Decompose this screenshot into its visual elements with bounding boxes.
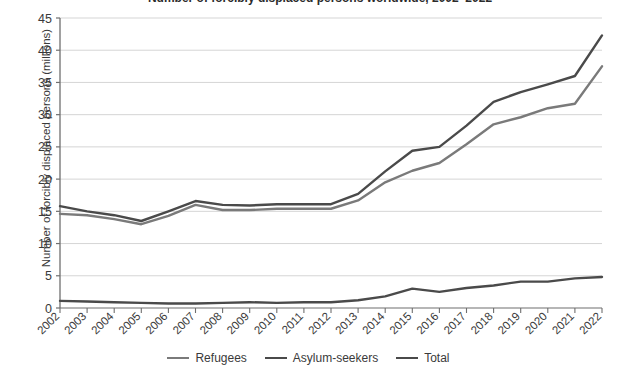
series-line-total — [60, 35, 602, 221]
x-tick-label: 2012 — [306, 310, 333, 337]
x-axis-labels: 2002200320042005200620072008200920102011… — [35, 310, 604, 337]
legend-swatch-total — [396, 357, 418, 359]
x-tick-label: 2011 — [279, 310, 305, 336]
legend-swatch-refugees — [167, 357, 189, 359]
y-tick-label: 5 — [45, 269, 52, 283]
legend-label-asylum-seekers: Asylum-seekers — [293, 351, 378, 365]
x-tick-label: 2021 — [550, 310, 577, 337]
legend-item-asylum-seekers[interactable]: Asylum-seekers — [265, 351, 378, 365]
x-tick-label: 2018 — [468, 310, 495, 337]
x-tick-label: 2003 — [62, 310, 89, 337]
y-axis-ticks: 051015202530354045 — [38, 12, 60, 316]
y-tick-label: 35 — [38, 76, 52, 90]
legend-label-refugees: Refugees — [195, 351, 246, 365]
x-tick-label: 2013 — [333, 310, 360, 337]
y-tick-label: 30 — [38, 108, 52, 122]
y-tick-label: 25 — [38, 140, 52, 154]
series-line-refugees — [60, 66, 602, 224]
y-tick-label: 10 — [38, 237, 52, 251]
line-chart: Number of forcibly displaced persons wor… — [0, 0, 617, 376]
chart-legend: Refugees Asylum-seekers Total — [0, 351, 617, 365]
y-tick-label: 15 — [38, 205, 52, 219]
data-series — [60, 35, 602, 303]
series-line-asylum-seekers — [60, 277, 602, 303]
x-tick-label: 2008 — [197, 310, 224, 337]
x-tick-label: 2010 — [252, 310, 279, 337]
x-tick-label: 2015 — [387, 310, 414, 337]
x-tick-label: 2017 — [441, 310, 468, 337]
legend-label-total: Total — [424, 351, 449, 365]
x-tick-label: 2014 — [360, 310, 387, 337]
y-tick-label: 45 — [38, 12, 52, 26]
x-tick-label: 2006 — [143, 310, 170, 337]
x-tick-label: 2009 — [225, 310, 252, 337]
x-tick-label: 2019 — [496, 310, 523, 337]
axis-lines — [60, 18, 602, 308]
x-axis-ticks — [60, 308, 602, 313]
legend-swatch-asylum-seekers — [265, 357, 287, 359]
x-tick-label: 2002 — [35, 310, 62, 337]
gridlines — [60, 18, 602, 276]
x-tick-label: 2007 — [170, 310, 197, 337]
plot-area: 051015202530354045 200220032004200520062… — [0, 0, 617, 376]
x-tick-label: 2016 — [414, 310, 441, 337]
y-tick-label: 20 — [38, 173, 52, 187]
legend-item-total[interactable]: Total — [396, 351, 449, 365]
x-tick-label: 2020 — [523, 310, 550, 337]
y-tick-label: 40 — [38, 44, 52, 58]
x-tick-label: 2005 — [116, 310, 143, 337]
x-tick-label: 2004 — [89, 310, 116, 337]
legend-item-refugees[interactable]: Refugees — [167, 351, 246, 365]
x-tick-label: 2022 — [577, 310, 604, 337]
